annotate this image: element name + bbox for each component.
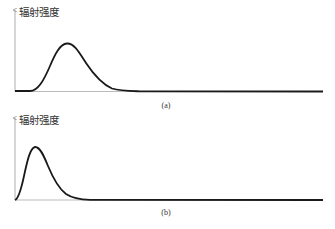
y-axis-label: 辐射强度: [19, 6, 60, 18]
panel-b: 辐射强度 (b): [15, 114, 323, 217]
panel-a: 辐射强度 (a): [15, 6, 323, 110]
caption: (a): [162, 101, 171, 110]
caption: (b): [161, 208, 171, 217]
y-axis-label: 辐射强度: [19, 114, 60, 126]
intensity-curve: [15, 43, 323, 91]
figure: 辐射强度 (a) 辐射强度 (b): [0, 0, 335, 229]
intensity-curve: [15, 147, 323, 200]
